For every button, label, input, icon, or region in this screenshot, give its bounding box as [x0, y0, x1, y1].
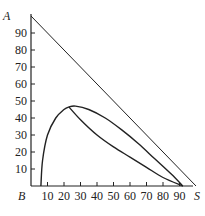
- x-tick-label: 80: [157, 189, 169, 203]
- x-tick-label: 20: [58, 189, 70, 203]
- label-b: B: [18, 189, 26, 203]
- a-s-line-line: [31, 16, 196, 186]
- y-tick-label: 10: [15, 162, 27, 176]
- chart-series: [31, 16, 196, 186]
- x-tick-label: 50: [108, 189, 120, 203]
- x-tick-label: 10: [42, 189, 54, 203]
- y-tick-label: 40: [15, 111, 27, 125]
- y-tick-label: 50: [15, 94, 27, 108]
- y-tick-label: 70: [15, 60, 27, 74]
- conjugate-line-line: [69, 107, 183, 186]
- y-tick-label: 30: [15, 128, 27, 142]
- y-ticks: 102030405060708090: [15, 26, 35, 176]
- label-a: A: [2, 9, 11, 23]
- label-s: S: [194, 189, 200, 203]
- x-tick-label: 90: [174, 189, 186, 203]
- x-ticks: 102030405060708090: [42, 182, 186, 203]
- x-tick-label: 40: [91, 189, 103, 203]
- y-tick-label: 20: [15, 145, 27, 159]
- ternary-solubility-diagram: 102030405060708090 102030405060708090 A …: [0, 0, 205, 216]
- y-tick-label: 80: [15, 43, 27, 57]
- y-tick-label: 90: [15, 26, 27, 40]
- x-tick-label: 30: [75, 189, 87, 203]
- y-tick-label: 60: [15, 77, 27, 91]
- x-tick-label: 60: [124, 189, 136, 203]
- x-tick-label: 70: [141, 189, 153, 203]
